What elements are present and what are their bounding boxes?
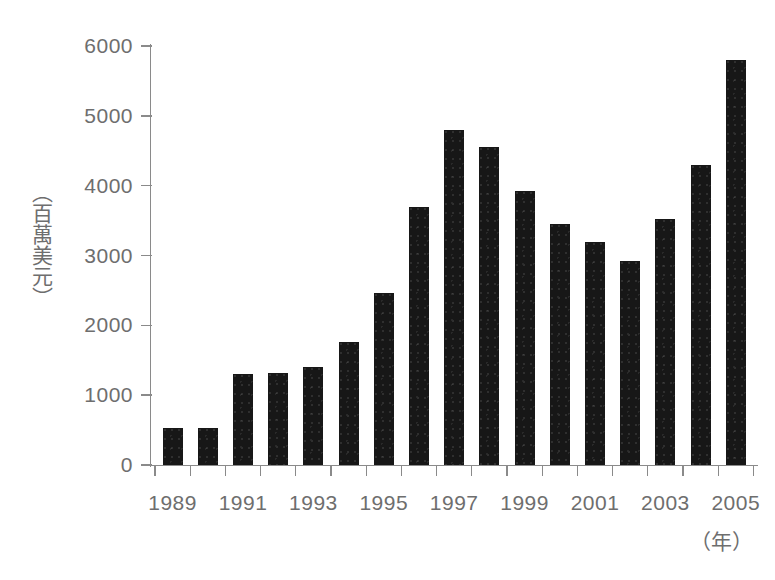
y-axis-tick-label: 6000 bbox=[57, 35, 133, 56]
bar bbox=[303, 367, 323, 465]
x-axis-tick-label: 2005 bbox=[701, 492, 771, 513]
x-axis-title: （年） bbox=[690, 525, 753, 555]
x-axis-tick-label: 2001 bbox=[560, 492, 630, 513]
x-axis-tick bbox=[366, 465, 367, 476]
y-axis-tick bbox=[141, 255, 152, 256]
bar bbox=[585, 242, 605, 465]
y-axis-tick bbox=[141, 185, 152, 186]
x-axis-tick bbox=[753, 465, 754, 476]
bar bbox=[198, 428, 218, 465]
bar bbox=[444, 130, 464, 465]
x-axis-tick bbox=[330, 465, 331, 476]
x-axis-tick bbox=[506, 465, 507, 476]
y-axis-tick-label: 4000 bbox=[57, 175, 133, 196]
y-axis-tick bbox=[141, 464, 152, 465]
x-axis-tick bbox=[436, 465, 437, 476]
x-axis-tick-label: 1993 bbox=[278, 492, 348, 513]
bar bbox=[691, 165, 711, 465]
bar bbox=[163, 428, 183, 465]
x-axis-tick bbox=[190, 465, 191, 476]
x-axis-tick bbox=[542, 465, 543, 476]
bar bbox=[374, 293, 394, 465]
x-axis-tick bbox=[154, 465, 155, 476]
bar-chart-figure: （百萬美元） （年） 0100020003000400050006000 198… bbox=[0, 0, 775, 580]
x-axis-tick-label: 1997 bbox=[419, 492, 489, 513]
x-axis-tick bbox=[260, 465, 261, 476]
y-axis-tick-label: 2000 bbox=[57, 314, 133, 335]
bar bbox=[620, 261, 640, 465]
bar bbox=[655, 219, 675, 465]
x-axis-tick-label: 1989 bbox=[138, 492, 208, 513]
x-axis-tick bbox=[295, 465, 296, 476]
y-axis-tick-label: 1000 bbox=[57, 384, 133, 405]
x-axis-tick bbox=[612, 465, 613, 476]
bar bbox=[268, 373, 288, 465]
x-axis-tick-label: 1991 bbox=[208, 492, 278, 513]
bar bbox=[515, 191, 535, 465]
y-axis-tick bbox=[141, 325, 152, 326]
x-axis-tick bbox=[225, 465, 226, 476]
bar bbox=[479, 147, 499, 465]
y-axis-tick-label: 5000 bbox=[57, 105, 133, 126]
x-axis-tick bbox=[647, 465, 648, 476]
y-axis-tick bbox=[141, 45, 152, 46]
y-axis-title: （百萬美元） bbox=[22, 182, 52, 308]
x-axis-tick bbox=[718, 465, 719, 476]
x-axis-tick-label: 1999 bbox=[490, 492, 560, 513]
y-axis-tick bbox=[141, 115, 152, 116]
x-axis-tick bbox=[471, 465, 472, 476]
bar bbox=[726, 60, 746, 465]
bar bbox=[409, 207, 429, 465]
bar bbox=[233, 374, 253, 465]
x-axis-tick-label: 1995 bbox=[349, 492, 419, 513]
x-axis-tick-label: 2003 bbox=[630, 492, 700, 513]
x-axis-tick bbox=[682, 465, 683, 476]
y-axis-tick-label: 3000 bbox=[57, 245, 133, 266]
x-axis-tick bbox=[577, 465, 578, 476]
y-axis-tick bbox=[141, 394, 152, 395]
bar bbox=[339, 342, 359, 465]
x-axis-tick bbox=[401, 465, 402, 476]
y-axis-tick-label: 0 bbox=[57, 454, 133, 475]
bar bbox=[550, 224, 570, 465]
